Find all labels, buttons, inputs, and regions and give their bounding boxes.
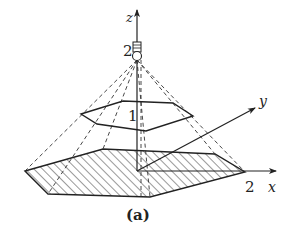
- y-axis-label: y: [258, 93, 268, 109]
- z-axis-label: z: [125, 10, 133, 25]
- x-axis-label: x: [268, 179, 276, 195]
- z-tick-label: 2: [123, 42, 133, 60]
- x-tick-label: 2: [245, 178, 255, 196]
- pyramid-light-diagram: z 2 1 y 2 x (a): [0, 0, 297, 233]
- upper-polygon-label: 1: [128, 107, 138, 125]
- light-bulb-icon: [133, 42, 142, 61]
- figure-caption: (a): [126, 206, 150, 224]
- shadow-hexagon: [25, 149, 245, 197]
